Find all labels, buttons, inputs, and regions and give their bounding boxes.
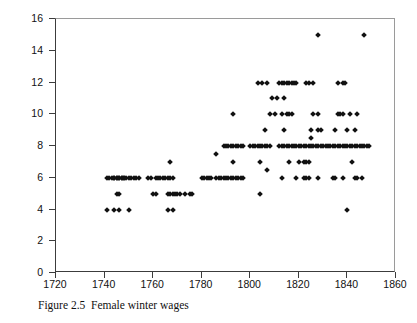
x-axis-tick-label: 1840 — [324, 279, 368, 290]
data-point — [342, 80, 348, 86]
data-point — [262, 127, 268, 133]
data-point — [354, 111, 360, 117]
data-point — [126, 207, 132, 213]
data-point — [315, 175, 321, 181]
data-point — [116, 191, 122, 197]
y-axis-tick-label: 10 — [3, 108, 43, 119]
data-point — [264, 80, 270, 86]
y-axis-tick — [49, 240, 55, 241]
x-axis-tick-label: 1780 — [179, 279, 223, 290]
data-point — [311, 80, 317, 86]
x-axis-tick-label: 1860 — [373, 279, 417, 290]
data-point — [340, 175, 346, 181]
data-point — [286, 159, 292, 165]
data-point — [281, 127, 287, 133]
data-point — [294, 80, 300, 86]
data-point — [230, 111, 236, 117]
y-axis-tick — [49, 50, 55, 51]
data-point — [345, 207, 351, 213]
data-point — [308, 127, 314, 133]
data-point — [359, 175, 365, 181]
data-point — [272, 111, 278, 117]
figure-caption: Figure 2.5 Female winter wages — [38, 299, 189, 311]
y-axis-tick-label: 16 — [3, 13, 43, 24]
data-point — [308, 135, 314, 141]
y-axis-tick — [49, 209, 55, 210]
data-point — [116, 207, 122, 213]
scatter-plot-area — [55, 18, 395, 272]
data-point — [315, 32, 321, 38]
data-point — [352, 127, 358, 133]
x-axis-tick-label: 1720 — [33, 279, 77, 290]
data-point — [332, 175, 338, 181]
x-axis-tick-label: 1760 — [130, 279, 174, 290]
y-axis-tick-label: 0 — [3, 267, 43, 278]
data-point — [347, 111, 353, 117]
y-axis-tick-label: 6 — [3, 172, 43, 183]
data-point — [257, 159, 263, 165]
data-point — [281, 96, 287, 102]
y-axis-tick-label: 14 — [3, 45, 43, 56]
x-axis-tick-label: 1820 — [276, 279, 320, 290]
data-point — [366, 143, 372, 149]
y-axis-tick — [49, 82, 55, 83]
data-point — [274, 96, 280, 102]
data-point — [332, 127, 338, 133]
data-point — [345, 127, 351, 133]
data-point — [294, 175, 300, 181]
data-point — [257, 191, 263, 197]
data-point — [189, 191, 195, 197]
data-point — [264, 167, 270, 173]
data-point — [230, 159, 236, 165]
y-axis-tick-label: 4 — [3, 203, 43, 214]
data-point — [315, 111, 321, 117]
y-axis-tick-label: 8 — [3, 140, 43, 151]
data-point — [167, 159, 173, 165]
data-point — [279, 175, 285, 181]
data-point — [349, 159, 355, 165]
x-axis-tick-label: 1800 — [227, 279, 271, 290]
y-axis-tick — [49, 113, 55, 114]
y-axis-tick — [49, 145, 55, 146]
y-axis-tick — [49, 177, 55, 178]
y-axis-tick — [49, 18, 55, 19]
data-point — [170, 207, 176, 213]
data-point — [240, 175, 246, 181]
figure-container: 0246810121416 17201740176017801800182018… — [0, 0, 417, 323]
data-point — [213, 151, 219, 157]
y-axis-tick-label: 12 — [3, 76, 43, 87]
data-point — [362, 32, 368, 38]
x-axis-tick-label: 1740 — [82, 279, 126, 290]
data-point — [104, 207, 110, 213]
data-points-layer — [56, 19, 394, 271]
y-axis-tick-label: 2 — [3, 235, 43, 246]
